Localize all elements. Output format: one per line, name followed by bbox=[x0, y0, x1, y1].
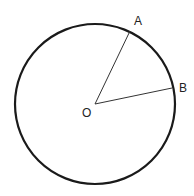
radius-OA bbox=[95, 31, 130, 104]
label-A: A bbox=[134, 14, 142, 28]
label-O: O bbox=[82, 106, 91, 120]
radius-OB bbox=[95, 88, 172, 104]
circle-diagram: A B O bbox=[0, 0, 194, 196]
label-B: B bbox=[179, 81, 187, 95]
